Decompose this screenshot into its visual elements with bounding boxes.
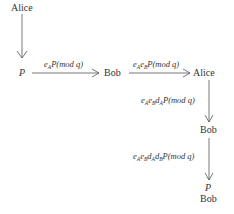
edge-label-2: eAeBP(mod q): [133, 60, 179, 69]
node-bob-1: Bob: [104, 68, 121, 78]
edge-label-4: eAeBdAdBP(mod q): [133, 152, 194, 161]
node-p-start: P: [19, 68, 25, 78]
node-p-end: P: [205, 183, 211, 193]
edge-label-3: eAeBdAP(mod q): [141, 96, 195, 105]
edge-label-1: eAP(mod q): [44, 60, 83, 69]
node-alice-start: Alice: [11, 3, 33, 13]
node-bob-end: Bob: [200, 194, 217, 204]
node-bob-2: Bob: [200, 125, 217, 135]
arrows-layer: [0, 0, 234, 214]
node-alice-2: Alice: [193, 68, 215, 78]
